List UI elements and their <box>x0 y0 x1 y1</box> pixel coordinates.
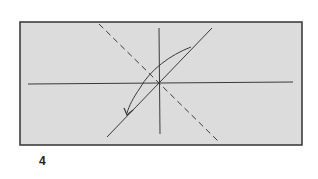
step-number: 4 <box>39 155 46 167</box>
origami-diagram <box>0 0 318 179</box>
